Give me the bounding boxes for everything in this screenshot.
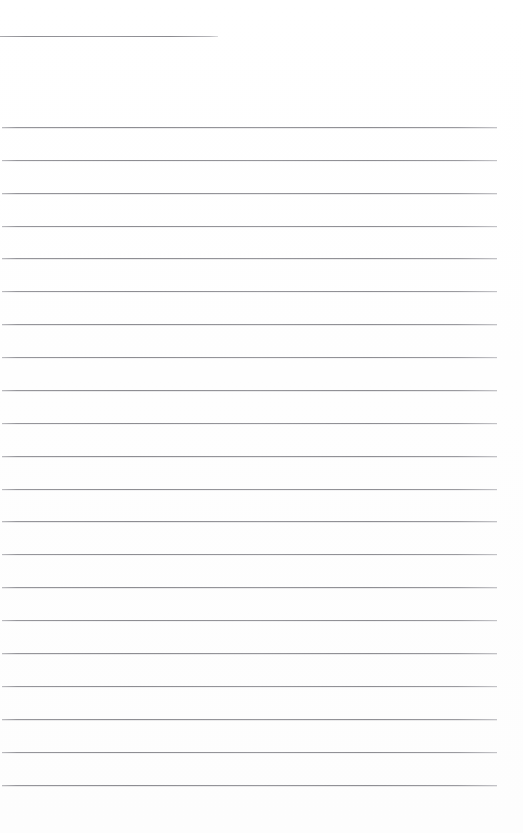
ruled-line xyxy=(2,193,497,194)
ruled-line xyxy=(2,390,497,391)
ruled-line xyxy=(2,719,497,720)
ruled-line xyxy=(2,456,497,457)
ruled-line xyxy=(2,752,497,753)
ruled-line xyxy=(2,521,497,522)
ruled-line xyxy=(2,587,497,588)
ruled-line xyxy=(2,686,497,687)
paper-background xyxy=(0,0,523,833)
heading-underline-rule xyxy=(0,36,218,37)
ruled-line xyxy=(2,357,497,358)
ruled-line xyxy=(2,226,497,227)
ruled-line xyxy=(2,489,497,490)
ruled-line xyxy=(2,554,497,555)
ruled-line xyxy=(2,785,497,786)
ruled-line xyxy=(2,291,497,292)
scanned-page xyxy=(0,0,523,833)
ruled-line xyxy=(2,160,497,161)
ruled-line xyxy=(2,653,497,654)
ruled-line xyxy=(2,127,497,128)
ruled-line xyxy=(2,620,497,621)
ruled-line xyxy=(2,258,497,259)
ruled-line xyxy=(2,423,497,424)
ruled-line xyxy=(2,324,497,325)
